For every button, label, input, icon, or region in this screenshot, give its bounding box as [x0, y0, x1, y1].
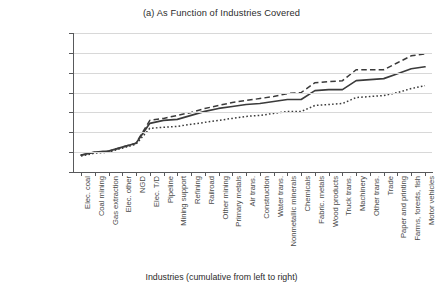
y-axis-line — [73, 33, 74, 173]
y-tick-mark — [69, 93, 73, 94]
x-tick-label: Motor vehicles — [428, 176, 436, 225]
x-tick-label: Truck trans. — [345, 176, 353, 216]
gridline — [74, 73, 432, 74]
x-tick-label: Coal mining — [98, 176, 106, 216]
y-tick-mark — [69, 172, 73, 173]
x-tick-mark — [95, 172, 96, 176]
x-tick-mark — [246, 172, 247, 176]
series-central-estimate — [81, 67, 425, 155]
x-axis-line — [73, 172, 433, 173]
x-tick-label: Farms, forests, fish — [414, 176, 422, 241]
gridline — [74, 53, 432, 54]
x-tick-label: Wood products — [332, 176, 340, 227]
x-tick-mark — [81, 172, 82, 176]
x-tick-mark — [109, 172, 110, 176]
x-tick-mark — [274, 172, 275, 176]
gridline — [74, 132, 432, 133]
x-tick-mark — [329, 172, 330, 176]
x-tick-label: NGD — [139, 176, 147, 193]
y-tick-mark — [69, 152, 73, 153]
series-container — [74, 33, 432, 172]
x-tick-label: Pipeline — [167, 176, 175, 203]
x-tick-label: Machinery — [359, 176, 367, 211]
x-tick-label: Elec. T/D — [153, 176, 161, 207]
x-tick-label: Air trans. — [249, 176, 257, 206]
gridline — [74, 33, 432, 34]
x-tick-label: Paper and printing — [400, 176, 408, 238]
x-tick-label: Elec. other — [125, 176, 133, 212]
x-tick-mark — [219, 172, 220, 176]
x-tick-mark — [136, 172, 137, 176]
x-tick-mark — [384, 172, 385, 176]
x-tick-label: Fabric. metals — [318, 176, 326, 224]
x-tick-mark — [287, 172, 288, 176]
x-tick-label: Nonmetallic minerals — [290, 176, 298, 246]
x-axis-title: Industries (cumulative from left to righ… — [0, 272, 443, 282]
x-tick-mark — [164, 172, 165, 176]
series-lower-bound — [81, 86, 425, 156]
y-tick-mark — [69, 132, 73, 133]
x-tick-label: Primary metals — [235, 176, 243, 227]
x-tick-mark — [301, 172, 302, 176]
plot-area — [74, 33, 432, 172]
x-tick-mark — [260, 172, 261, 176]
x-tick-mark — [425, 172, 426, 176]
x-tick-label: Gas extraction — [112, 176, 120, 225]
x-tick-label: Mining support — [180, 176, 188, 226]
chart-figure: (a) As Function of Industries Covered Ad… — [0, 0, 443, 291]
gridline — [74, 93, 432, 94]
x-tick-label: Other trans. — [373, 176, 381, 216]
y-tick-mark — [69, 73, 73, 74]
x-tick-label: Elec. coal — [84, 176, 92, 209]
x-tick-mark — [205, 172, 206, 176]
gridline — [74, 112, 432, 113]
y-tick-mark — [69, 33, 73, 34]
x-tick-label: Railroad — [208, 176, 216, 204]
x-tick-label: Chemicals — [304, 176, 312, 211]
y-tick-mark — [69, 53, 73, 54]
x-tick-label: Trade — [387, 176, 395, 196]
y-tick-mark — [69, 112, 73, 113]
gridline — [74, 152, 432, 153]
x-tick-mark — [315, 172, 316, 176]
x-tick-mark — [370, 172, 371, 176]
x-tick-label: Construction — [263, 176, 271, 219]
x-tick-label: Other mining — [222, 176, 230, 219]
x-tick-mark — [150, 172, 151, 176]
x-tick-mark — [191, 172, 192, 176]
chart-title: (a) As Function of Industries Covered — [0, 8, 443, 18]
x-tick-label: Refining — [194, 176, 202, 204]
x-tick-label: Water trans. — [277, 176, 285, 217]
